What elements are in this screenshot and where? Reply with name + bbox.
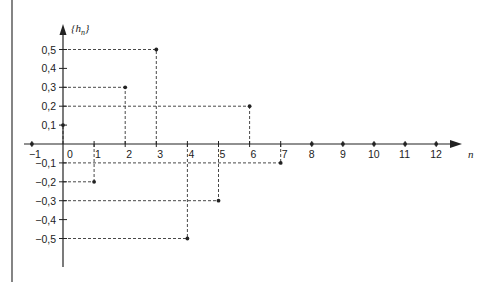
data-point bbox=[61, 123, 65, 127]
y-tick-label: 0,1 bbox=[41, 119, 56, 131]
x-tick-label: 11 bbox=[399, 148, 410, 160]
y-label-close: } bbox=[85, 22, 90, 34]
y-tick-label: 0,2 bbox=[41, 100, 56, 112]
x-tick-label: 4 bbox=[188, 148, 194, 160]
x-tick-label: 12 bbox=[430, 148, 442, 160]
y-axis-label: {hn} bbox=[71, 22, 90, 37]
x-tick-label: 7 bbox=[282, 148, 288, 160]
data-point bbox=[403, 142, 407, 146]
data-point bbox=[434, 142, 438, 146]
x-tick-label: 3 bbox=[157, 148, 163, 160]
x-tick-label: 2 bbox=[126, 148, 132, 160]
data-point bbox=[123, 85, 127, 89]
axes bbox=[24, 24, 462, 267]
y-tick-label: −0,2 bbox=[35, 176, 56, 188]
discrete-signal-chart: −10123456789101112 0,50,40,30,20,1−0,1−0… bbox=[0, 0, 482, 282]
data-point bbox=[154, 48, 158, 52]
x-tick-label: 9 bbox=[340, 148, 346, 160]
y-tick-label: −0,1 bbox=[35, 157, 56, 169]
x-axis-label: n bbox=[468, 148, 474, 160]
x-tick-label: 5 bbox=[220, 148, 226, 160]
data-point bbox=[372, 142, 376, 146]
y-tick-label: 0,4 bbox=[41, 62, 56, 74]
x-tick-label: 6 bbox=[251, 148, 257, 160]
data-point bbox=[92, 180, 96, 184]
data-point bbox=[217, 199, 221, 203]
data-point bbox=[186, 237, 190, 241]
y-tick-label: 0,5 bbox=[41, 44, 56, 56]
data-point bbox=[248, 104, 252, 108]
x-axis-arrow-icon bbox=[450, 140, 462, 148]
x-tick-label: 8 bbox=[309, 148, 315, 160]
data-point bbox=[310, 142, 314, 146]
x-tick-label: 10 bbox=[368, 148, 380, 160]
x-tick-label: 1 bbox=[95, 148, 101, 160]
y-tick-label: −0,5 bbox=[35, 233, 56, 245]
x-tick-label: 0 bbox=[67, 148, 73, 160]
y-tick-label: −0,3 bbox=[35, 195, 56, 207]
y-axis-arrow-icon bbox=[60, 24, 67, 35]
y-tick-label: 0,3 bbox=[41, 81, 56, 93]
data-point bbox=[30, 142, 34, 146]
y-tick-label: −0,4 bbox=[35, 214, 56, 226]
data-point bbox=[341, 142, 345, 146]
data-point bbox=[279, 161, 283, 165]
